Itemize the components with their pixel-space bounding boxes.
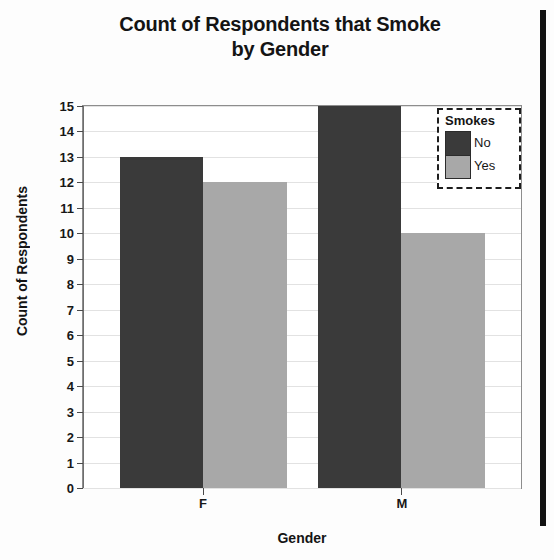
legend-body: NoYes bbox=[445, 131, 515, 179]
gridline bbox=[83, 488, 521, 489]
y-axis-label: 3 bbox=[67, 404, 74, 419]
y-axis-label: 2 bbox=[67, 430, 74, 445]
legend-swatches bbox=[445, 131, 471, 179]
y-axis-tick bbox=[77, 182, 83, 183]
gridline bbox=[83, 106, 521, 107]
y-axis-tick bbox=[77, 259, 83, 260]
y-axis-label: 11 bbox=[60, 200, 74, 215]
legend-swatch-yes[interactable] bbox=[446, 155, 470, 178]
y-axis-label: 8 bbox=[67, 277, 74, 292]
y-axis-label: 4 bbox=[67, 379, 74, 394]
y-axis-label: 1 bbox=[67, 455, 74, 470]
y-axis-tick bbox=[77, 284, 83, 285]
legend-title: Smokes bbox=[445, 113, 515, 129]
y-axis-tick bbox=[77, 488, 83, 489]
y-axis-title: Count of Respondents bbox=[14, 186, 44, 336]
bar-m-yes[interactable] bbox=[401, 233, 485, 488]
x-axis-label-m: M bbox=[396, 496, 407, 511]
legend: Smokes NoYes bbox=[437, 108, 521, 189]
y-axis-label: 6 bbox=[67, 328, 74, 343]
bar-m-no[interactable] bbox=[318, 106, 402, 488]
x-axis-tick bbox=[203, 488, 204, 495]
y-axis-tick bbox=[77, 412, 83, 413]
y-axis-tick bbox=[77, 361, 83, 362]
x-axis-tick bbox=[401, 488, 402, 495]
x-axis-title: Gender bbox=[82, 530, 522, 546]
y-axis-label: 9 bbox=[67, 251, 74, 266]
x-axis-label-f: F bbox=[199, 496, 207, 511]
y-axis-label: 10 bbox=[60, 226, 74, 241]
chart-figure: Count of Respondents that Smoke by Gende… bbox=[0, 0, 554, 560]
y-axis-label: 5 bbox=[67, 353, 74, 368]
y-axis-label: 12 bbox=[60, 175, 74, 190]
y-axis-label: 0 bbox=[67, 481, 74, 496]
y-axis-tick bbox=[77, 386, 83, 387]
y-axis-tick bbox=[77, 463, 83, 464]
bar-f-yes[interactable] bbox=[203, 182, 287, 488]
y-axis-tick bbox=[77, 310, 83, 311]
y-axis-label: 7 bbox=[67, 302, 74, 317]
y-axis-tick bbox=[77, 437, 83, 438]
scan-edge-artifact bbox=[540, 10, 546, 526]
y-axis-tick bbox=[77, 131, 83, 132]
y-axis-label: 13 bbox=[60, 149, 74, 164]
chart-title-line-1: Count of Respondents that Smoke bbox=[119, 13, 441, 35]
legend-labels: NoYes bbox=[474, 131, 495, 177]
bar-f-no[interactable] bbox=[120, 157, 204, 488]
legend-swatch-no[interactable] bbox=[446, 132, 470, 155]
y-axis-label: 15 bbox=[60, 99, 74, 114]
y-axis-label: 14 bbox=[60, 124, 74, 139]
y-axis-tick bbox=[77, 208, 83, 209]
y-axis-tick bbox=[77, 157, 83, 158]
chart-title-line-2: by Gender bbox=[231, 38, 328, 60]
legend-label-yes: Yes bbox=[474, 154, 495, 177]
legend-label-no: No bbox=[474, 131, 495, 154]
y-axis-tick bbox=[77, 106, 83, 107]
chart-title: Count of Respondents that Smoke by Gende… bbox=[40, 12, 520, 62]
y-axis-tick bbox=[77, 335, 83, 336]
y-axis-tick bbox=[77, 233, 83, 234]
y-axis-line bbox=[83, 106, 84, 488]
